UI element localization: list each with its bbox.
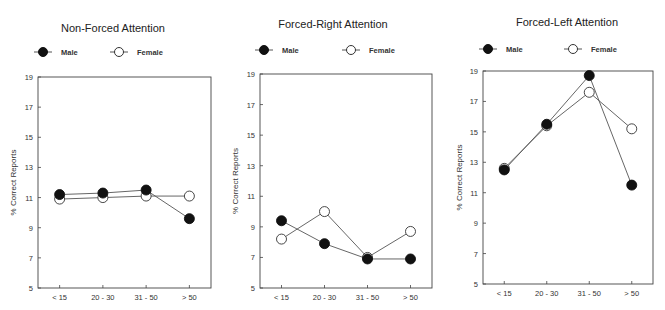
x-tick-label: < 15 [52,293,67,302]
data-point-female [184,191,194,201]
y-tick-label: 13 [25,163,33,172]
legend-female-label: Female [369,46,395,55]
chart-svg: Forced-Left AttentionMaleFemale579111315… [440,0,665,310]
x-tick-label: > 50 [182,293,197,302]
data-point-female [627,124,637,134]
chart-svg: Non-Forced AttentionMaleFemale5791113151… [0,0,220,310]
y-tick-label: 9 [474,219,478,228]
y-tick-label: 9 [251,223,255,232]
legend: MaleFemale [255,46,395,56]
legend-male-label: Male [61,48,78,57]
x-tick-label: 20 - 30 [91,293,114,302]
data-point-male [320,239,330,249]
y-tick-label: 19 [247,70,255,79]
chart-panel-non-forced: Non-Forced AttentionMaleFemale5791113151… [0,0,220,310]
y-tick-label: 9 [29,224,33,233]
data-point-male [542,119,552,129]
legend-male-label: Male [506,45,523,54]
legend-male-marker-icon [39,48,48,57]
plot-area [38,77,211,288]
x-tick-label: 31 - 50 [578,289,601,298]
legend-female-label: Female [591,45,617,54]
y-tick-label: 13 [470,158,478,167]
legend: MaleFemale [479,45,617,55]
x-tick-label: 31 - 50 [356,293,379,302]
y-tick-label: 5 [474,280,478,289]
y-tick-label: 17 [25,103,33,112]
x-tick-label: 20 - 30 [313,293,336,302]
chart-title: Forced-Right Attention [278,18,387,30]
series-line-female [282,212,411,258]
series-line-male [504,76,632,186]
x-tick-label: < 15 [274,293,289,302]
data-point-male [627,180,637,190]
legend-female-label: Female [137,48,163,57]
chart-svg: Forced-Right AttentionMaleFemale57911131… [220,0,440,310]
x-tick-label: 31 - 50 [134,293,157,302]
data-point-female [584,87,594,97]
series-line-female [504,92,632,168]
y-axis-label: % Correct Reports [455,145,464,211]
y-tick-label: 5 [29,284,33,293]
legend-female-marker-icon [569,45,578,54]
chart-panel-forced-right: Forced-Right AttentionMaleFemale57911131… [220,0,440,310]
data-point-male [98,188,108,198]
x-tick-label: < 15 [497,289,512,298]
x-tick-label: > 50 [624,289,639,298]
y-tick-label: 15 [247,131,255,140]
y-tick-label: 7 [474,250,478,259]
data-point-male [55,190,65,200]
y-tick-label: 11 [470,189,478,198]
y-tick-label: 15 [470,128,478,137]
chart-title: Non-Forced Attention [61,22,165,34]
y-tick-label: 17 [247,101,255,110]
legend-male-marker-icon [484,45,493,54]
y-axis-label: % Correct Reports [9,150,18,216]
x-tick-label: > 50 [403,293,418,302]
data-point-male [584,71,594,81]
y-tick-label: 5 [251,284,255,293]
legend: MaleFemale [34,48,163,58]
chart-panel-forced-left: Forced-Left AttentionMaleFemale579111315… [440,0,665,310]
data-point-male [277,216,287,226]
y-tick-label: 13 [247,162,255,171]
data-point-female [277,234,287,244]
y-tick-label: 17 [470,97,478,106]
y-tick-label: 7 [251,253,255,262]
y-tick-label: 19 [25,73,33,82]
data-point-male [499,165,509,175]
series-line-male [60,190,190,219]
data-point-male [184,214,194,224]
y-tick-label: 11 [247,192,255,201]
plot-area [483,71,653,284]
legend-male-label: Male [282,46,299,55]
data-point-male [406,254,416,264]
data-point-male [363,254,373,264]
y-tick-label: 15 [25,133,33,142]
y-tick-label: 7 [29,254,33,263]
legend-female-marker-icon [115,48,124,57]
y-tick-label: 11 [25,194,33,203]
data-point-female [406,226,416,236]
series-line-female [60,196,190,199]
chart-title: Forced-Left Attention [516,16,618,28]
legend-male-marker-icon [260,46,269,55]
data-point-female [320,207,330,217]
data-point-male [141,185,151,195]
y-axis-label: % Correct Reports [231,148,240,214]
x-tick-label: 20 - 30 [535,289,558,298]
legend-female-marker-icon [347,46,356,55]
y-tick-label: 19 [470,67,478,76]
